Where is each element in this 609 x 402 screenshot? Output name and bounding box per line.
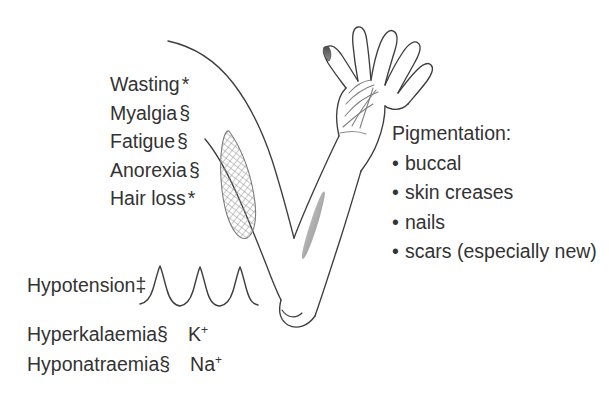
symptom-row: Myalgia§ [110, 99, 200, 128]
sodium-ion-symbol: Na [170, 353, 215, 375]
symptom-row: Fatigue§ [110, 127, 200, 156]
potassium-ion-symbol: K [168, 323, 201, 345]
pigmentation-item: •buccal [392, 149, 597, 179]
blood-pressure-waveform [140, 266, 258, 306]
symptom-row: Wasting* [110, 70, 200, 99]
hyponatraemia-footnote-mark: § [159, 353, 170, 375]
pigmentation-item: •scars (especially new) [392, 237, 597, 267]
pigmentation-item-label: scars (especially new) [405, 240, 597, 262]
pigmented-thumbnail [323, 46, 331, 61]
symptom-footnote-mark: § [187, 159, 200, 181]
symptom-label: Myalgia [110, 102, 177, 124]
hypotension-text: Hypotension [27, 274, 135, 296]
hyperkalaemia-text: Hyperkalaemia [27, 323, 157, 345]
symptom-footnote-mark: § [177, 102, 190, 124]
figure-canvas: Wasting* Myalgia§ Fatigue§ Anorexia§ Hai… [0, 0, 609, 402]
wrist-ulnar-side [361, 106, 385, 171]
symptom-footnote-mark: * [186, 187, 196, 209]
symptom-footnote-mark: * [180, 73, 190, 95]
pigmentation-item-label: nails [405, 211, 445, 233]
pigmentation-heading: Pigmentation: [392, 119, 597, 149]
wrist-fold [340, 132, 366, 134]
symptom-label: Fatigue [110, 130, 175, 152]
hand-ulnar-edge [385, 104, 408, 109]
middle-finger-outline [371, 31, 397, 85]
palm-creases [343, 80, 378, 128]
wrist-thumb-side [337, 88, 346, 136]
pigmentation-item: •skin creases [392, 178, 597, 208]
elbow-crease [282, 310, 302, 317]
symptom-row: Hair loss* [110, 184, 200, 213]
bullet-icon: • [392, 149, 405, 179]
sodium-ion-charge: + [215, 353, 222, 367]
pigmentation-item-label: skin creases [405, 181, 513, 203]
bullet-icon: • [392, 208, 405, 238]
index-finger-outline [353, 27, 371, 81]
symptom-label: Anorexia [110, 159, 187, 181]
pigmentation-item-label: buccal [405, 152, 461, 174]
symptom-label: Wasting [110, 73, 180, 95]
symptom-row: Anorexia§ [110, 156, 200, 185]
hyperkalaemia-footnote-mark: § [157, 323, 168, 345]
hypotension-label: Hypotension‡ [27, 274, 146, 297]
symptom-list: Wasting* Myalgia§ Fatigue§ Anorexia§ Hai… [110, 70, 200, 213]
symptom-label: Hair loss [110, 187, 186, 209]
hyponatraemia-text: Hyponatraemia [27, 353, 159, 375]
symptom-footnote-mark: § [175, 130, 188, 152]
potassium-ion-charge: + [201, 323, 208, 337]
bullet-icon: • [392, 237, 405, 267]
forearm-outer-contour [315, 171, 361, 316]
hypotension-footnote-mark: ‡ [135, 274, 146, 296]
bullet-icon: • [392, 178, 405, 208]
pigmentation-item: •nails [392, 208, 597, 238]
pigmented-scar [302, 191, 325, 259]
hyponatraemia-label: Hyponatraemia§Na+ [27, 353, 222, 376]
hyperkalaemia-label: Hyperkalaemia§K+ [27, 323, 208, 346]
wasted-muscle [221, 131, 256, 239]
pigmentation-block: Pigmentation: •buccal •skin creases •nai… [392, 119, 597, 267]
